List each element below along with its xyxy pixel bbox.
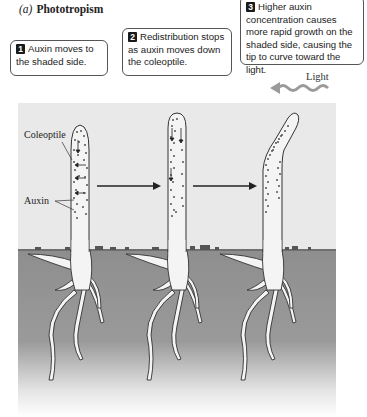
light-arrow-icon bbox=[270, 82, 328, 94]
phototropism-illustration: Coleoptile Auxin bbox=[0, 0, 367, 417]
auxin-label: Auxin bbox=[24, 195, 49, 206]
coleoptile-label: Coleoptile bbox=[24, 129, 66, 140]
